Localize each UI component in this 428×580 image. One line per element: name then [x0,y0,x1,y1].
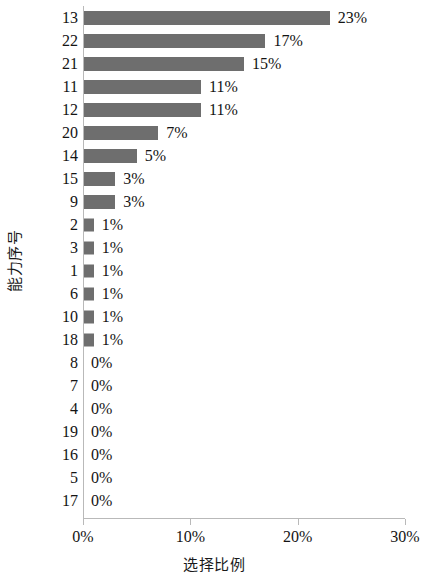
category-label: 12 [28,102,78,118]
bar [83,241,94,254]
bar-row: 1111% [0,75,428,98]
category-label: 8 [28,355,78,371]
bar-row: 70% [0,374,428,397]
category-label: 19 [28,424,78,440]
x-tick [190,519,191,525]
category-label: 7 [28,378,78,394]
bar [83,11,330,25]
category-label: 20 [28,125,78,141]
x-tick-label: 20% [283,528,312,546]
bar-value-label: 0% [91,401,112,417]
bar-row: 11% [0,259,428,282]
bar-value-label: 5% [145,148,166,164]
bar [83,333,94,346]
x-tick-label: 10% [176,528,205,546]
category-label: 4 [28,401,78,417]
x-tick-label: 0% [72,528,93,546]
bar-value-label: 3% [123,171,144,187]
bar [83,195,115,209]
category-label: 9 [28,194,78,210]
bar-value-label: 0% [91,470,112,486]
bar-value-label: 0% [91,355,112,371]
category-label: 2 [28,217,78,233]
bar-value-label: 0% [91,447,112,463]
y-axis-line [83,6,84,518]
bar [83,149,137,163]
category-label: 14 [28,148,78,164]
bar-value-label: 7% [166,125,187,141]
plot-area: 1323%2217%2115%1111%1211%207%145%153%93%… [0,0,428,520]
bar-value-label: 15% [252,56,281,72]
bar [83,80,201,94]
category-label: 5 [28,470,78,486]
category-label: 15 [28,171,78,187]
bar [83,103,201,117]
bar-value-label: 11% [209,79,238,95]
bar-row: 61% [0,282,428,305]
category-label: 21 [28,56,78,72]
bar-value-label: 1% [102,263,123,279]
bar-row: 101% [0,305,428,328]
bar-row: 40% [0,397,428,420]
bar-value-label: 17% [273,33,302,49]
category-label: 1 [28,263,78,279]
bar-row: 170% [0,489,428,512]
bar-value-label: 1% [102,309,123,325]
bar [83,34,265,48]
category-label: 13 [28,10,78,26]
bar-value-label: 1% [102,286,123,302]
x-axis-title: 选择比例 [0,553,428,574]
x-axis-line [83,518,405,519]
bar-row: 153% [0,167,428,190]
bar-row: 93% [0,190,428,213]
bar-value-label: 11% [209,102,238,118]
bar-chart: 能力序号 1323%2217%2115%1111%1211%207%145%15… [0,0,428,580]
bar [83,57,244,71]
bar [83,126,158,140]
bar-row: 1323% [0,6,428,29]
bar-value-label: 23% [338,10,367,26]
bar-row: 50% [0,466,428,489]
bar-row: 160% [0,443,428,466]
category-label: 11 [28,79,78,95]
bar-value-label: 0% [91,424,112,440]
category-label: 17 [28,493,78,509]
bar [83,310,94,323]
bar-row: 207% [0,121,428,144]
category-label: 3 [28,240,78,256]
bar-value-label: 1% [102,332,123,348]
x-tick [405,519,406,525]
category-label: 22 [28,33,78,49]
bar-row: 80% [0,351,428,374]
category-label: 16 [28,447,78,463]
bar-value-label: 1% [102,240,123,256]
bar-value-label: 3% [123,194,144,210]
bar-row: 181% [0,328,428,351]
bar-row: 145% [0,144,428,167]
bar-row: 2115% [0,52,428,75]
bar [83,172,115,186]
bar-row: 31% [0,236,428,259]
bar [83,264,94,277]
x-tick-label: 30% [390,528,419,546]
bar-row: 2217% [0,29,428,52]
bar-row: 21% [0,213,428,236]
x-tick [298,519,299,525]
category-label: 10 [28,309,78,325]
category-label: 6 [28,286,78,302]
bar-value-label: 1% [102,217,123,233]
category-label: 18 [28,332,78,348]
bar-value-label: 0% [91,378,112,394]
x-tick [83,519,84,525]
bar [83,218,94,231]
bar [83,287,94,300]
bar-row: 190% [0,420,428,443]
bar-row: 1211% [0,98,428,121]
bar-value-label: 0% [91,493,112,509]
